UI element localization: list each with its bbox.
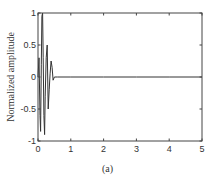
x-axis-ticks: 012345: [35, 13, 204, 154]
y-tick-label: -0.5: [20, 104, 36, 114]
x-tick-label: 5: [199, 144, 204, 154]
x-tick-label: 1: [68, 144, 73, 154]
x-tick-label: 0: [35, 144, 40, 154]
waveform-line: [38, 13, 202, 135]
y-tick-label: -1: [28, 136, 36, 146]
plot-area: [38, 13, 202, 135]
x-tick-label: 2: [101, 144, 106, 154]
y-tick-label: 1: [31, 8, 36, 18]
y-tick-label: 0.5: [23, 40, 36, 50]
y-axis-label: Normalized amplitude: [5, 32, 16, 122]
figure-caption: (a): [0, 163, 215, 174]
y-tick-label: 0: [31, 72, 36, 82]
x-tick-label: 3: [134, 144, 139, 154]
chart: 012345 10.50-0.5-1 Normalized amplitude: [0, 0, 215, 160]
x-tick-label: 4: [167, 144, 172, 154]
